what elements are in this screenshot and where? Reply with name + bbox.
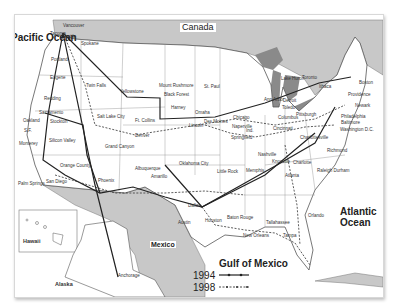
city-label: Harney xyxy=(171,106,186,111)
city-label: Springfield xyxy=(231,136,252,141)
city-label: Ft. Collins xyxy=(135,119,155,124)
city-label: Newark xyxy=(355,104,370,109)
city-label: St. Paul xyxy=(204,85,220,90)
city-label: Richmond xyxy=(327,149,347,154)
city-label: Dallas xyxy=(188,204,201,209)
hawaii-label: Hawaii xyxy=(23,239,40,245)
city-label: Orange County xyxy=(60,164,91,169)
city-label: New Orleans xyxy=(243,234,269,239)
city-label: Seattle xyxy=(62,35,76,40)
mexico-label: Mexico xyxy=(150,241,176,248)
city-label: Ann Arbor xyxy=(264,98,284,103)
dashed-line-icon xyxy=(219,284,249,290)
gulf-of-mexico-label: Gulf of Mexico xyxy=(219,259,288,270)
city-label: Sacramento xyxy=(39,111,63,116)
city-label: Raleigh Durham xyxy=(317,169,350,174)
city-label: Vancouver xyxy=(63,24,84,29)
city-label: Grand Canyon xyxy=(105,145,134,150)
city-label: Monterey xyxy=(19,142,38,147)
city-label: Black Forest xyxy=(164,93,189,98)
city-label: Albuquerque xyxy=(135,167,161,172)
city-label: Des Moines xyxy=(204,120,228,125)
city-label: Nashville xyxy=(258,153,276,158)
city-label: Portland xyxy=(51,58,68,63)
city-label: Denver xyxy=(135,134,150,139)
city-label: Toronto xyxy=(302,76,317,81)
city-label: Houston xyxy=(205,219,222,224)
city-label: Anchorage xyxy=(118,274,140,279)
city-label: Baltimore xyxy=(341,121,360,126)
city-label: Detroit xyxy=(283,99,296,104)
legend-year-1998: 1998 xyxy=(193,282,219,293)
canada-label: Canada xyxy=(180,23,216,32)
cuba-region xyxy=(315,273,383,287)
city-label: Phoenix xyxy=(98,179,114,184)
city-label: Lincoln xyxy=(189,124,203,129)
city-label: Stockton xyxy=(50,120,68,125)
legend-item-1998: 1998 xyxy=(193,281,249,293)
city-label: Atlanta xyxy=(285,174,299,179)
legend: 1994 1998 xyxy=(193,269,249,293)
city-label: Amarillo xyxy=(151,175,167,180)
city-label: Palm Springs xyxy=(18,182,45,187)
alaska-label: Alaska xyxy=(55,282,73,288)
us-route-map xyxy=(15,15,383,297)
city-label: Charlotte xyxy=(293,161,311,166)
city-label: Omaha xyxy=(195,111,210,116)
city-label: Baton Rouge xyxy=(227,216,253,221)
city-label: Providence xyxy=(348,93,371,98)
city-label: Memphis xyxy=(246,169,264,174)
atlantic-ocean-label: Atlantic Ocean xyxy=(340,207,380,228)
city-label: Toledo xyxy=(282,106,295,111)
city-label: Cincinnati xyxy=(273,127,293,132)
city-label: Oakland xyxy=(23,119,40,124)
city-label: Austin xyxy=(178,221,191,226)
city-label: Tampa xyxy=(283,234,297,239)
city-label: Mount Rushmore xyxy=(159,84,194,89)
city-label: Tallahassee xyxy=(266,221,290,226)
city-label: San Diego xyxy=(46,180,67,185)
city-label: Boston xyxy=(359,81,373,86)
hawaii-inset xyxy=(19,210,77,252)
city-label: Pittsburgh xyxy=(296,113,316,118)
city-label: Silicon Valley xyxy=(49,139,75,144)
city-label: Ithaca xyxy=(319,85,331,90)
city-label: Spokane xyxy=(81,42,99,47)
city-label: Lake Huron xyxy=(281,77,304,82)
legend-year-1994: 1994 xyxy=(193,270,219,281)
city-label: Oklahoma City xyxy=(179,162,209,167)
city-label: Little Rock xyxy=(217,170,238,175)
solid-line-icon xyxy=(219,272,249,278)
city-label: Knoxville xyxy=(272,160,290,165)
city-label: Orlando xyxy=(308,214,324,219)
city-label: Chicago xyxy=(233,116,250,121)
city-label: Yellowstone xyxy=(120,90,144,95)
map-frame: Pacific Ocean Canada Atlantic Ocean Gulf… xyxy=(14,14,384,298)
city-label: Salt Lake City xyxy=(97,115,125,120)
city-label: S.F. xyxy=(24,129,32,134)
city-label: Eugene xyxy=(50,76,66,81)
city-label: Ind. xyxy=(246,129,254,134)
city-label: Washington D.C. xyxy=(340,128,374,133)
city-label: Charlottesville xyxy=(300,136,328,141)
city-label: Redding xyxy=(44,97,61,102)
city-label: Twin Falls xyxy=(86,84,106,89)
legend-item-1994: 1994 xyxy=(193,269,249,281)
city-label: Philadelphia xyxy=(341,115,366,120)
